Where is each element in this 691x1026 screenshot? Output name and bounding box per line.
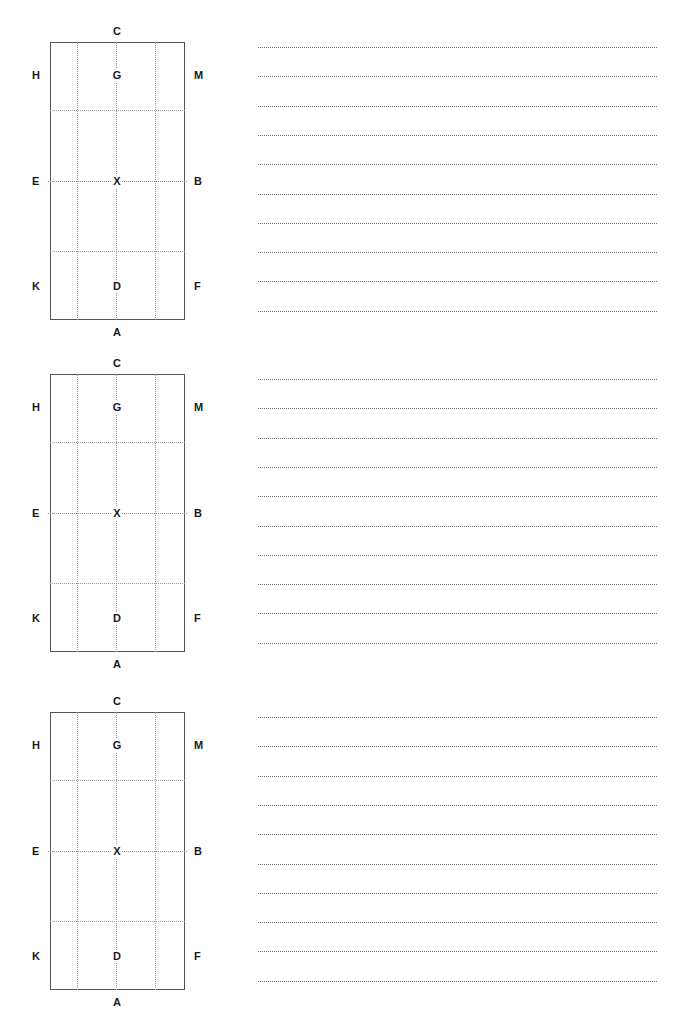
grid-label-left-bottom: K [30,950,42,963]
ruled-line[interactable] [258,47,657,48]
grid-label-inner-middle: X [111,845,122,858]
ruled-line[interactable] [258,805,657,806]
labeled-rectangle-grid[interactable]: C A H E K M B F G X D [50,42,185,320]
grid-label-inner-middle: X [111,175,122,188]
grid-label-left-bottom: K [30,612,42,625]
ruled-line[interactable] [258,922,657,923]
worksheet-block: C A H E K M B F G X D [0,695,691,995]
ruled-line[interactable] [258,981,657,982]
horizontal-guide-3 [50,921,185,922]
labeled-rectangle-grid[interactable]: C A H E K M B F G X D [50,712,185,990]
grid-label-inner-bottom: D [111,950,123,963]
grid-label-inner-middle: X [111,507,122,520]
ruled-line[interactable] [258,164,657,165]
ruled-line[interactable] [258,526,657,527]
ruled-line[interactable] [258,252,657,253]
labeled-rectangle-grid[interactable]: C A H E K M B F G X D [50,374,185,652]
grid-label-right-top: M [192,69,205,82]
ruled-line[interactable] [258,408,657,409]
worksheet-block: C A H E K M B F G X D [0,25,691,325]
horizontal-guide-1 [50,780,185,781]
dotted-ruled-lines[interactable] [258,25,657,325]
horizontal-guide-3 [50,251,185,252]
worksheet-block: C A H E K M B F G X D [0,357,691,657]
grid-label-left-top: H [30,401,42,414]
grid-label-left-middle: E [30,175,41,188]
ruled-line[interactable] [258,834,657,835]
grid-label-right-middle: B [192,845,204,858]
ruled-line[interactable] [258,613,657,614]
horizontal-guide-1 [50,110,185,111]
grid-label-right-top: M [192,401,205,414]
ruled-line[interactable] [258,776,657,777]
grid-label-inner-bottom: D [111,280,123,293]
grid-label-right-bottom: F [192,280,203,293]
ruled-line[interactable] [258,746,657,747]
ruled-line[interactable] [258,135,657,136]
ruled-line[interactable] [258,223,657,224]
grid-label-left-bottom: K [30,280,42,293]
grid-label-right-middle: B [192,175,204,188]
grid-label-inner-top: G [111,739,124,752]
ruled-line[interactable] [258,281,657,282]
ruled-line[interactable] [258,379,657,380]
grid-label-bottom: A [111,996,123,1009]
grid-label-inner-bottom: D [111,612,123,625]
ruled-line[interactable] [258,438,657,439]
grid-label-bottom: A [111,658,123,671]
grid-label-right-top: M [192,739,205,752]
grid-label-inner-top: G [111,401,124,414]
grid-label-top: C [111,25,123,38]
grid-label-left-top: H [30,69,42,82]
grid-label-right-bottom: F [192,612,203,625]
grid-label-left-middle: E [30,845,41,858]
dotted-ruled-lines[interactable] [258,357,657,657]
ruled-line[interactable] [258,194,657,195]
ruled-line[interactable] [258,717,657,718]
ruled-line[interactable] [258,864,657,865]
grid-label-inner-top: G [111,69,124,82]
ruled-line[interactable] [258,643,657,644]
horizontal-guide-3 [50,583,185,584]
ruled-line[interactable] [258,555,657,556]
ruled-line[interactable] [258,76,657,77]
ruled-line[interactable] [258,106,657,107]
worksheet-page: C A H E K M B F G X D C A H E K [0,0,691,1026]
grid-label-top: C [111,695,123,708]
grid-label-right-middle: B [192,507,204,520]
ruled-line[interactable] [258,311,657,312]
ruled-line[interactable] [258,496,657,497]
grid-label-left-top: H [30,739,42,752]
ruled-line[interactable] [258,467,657,468]
grid-label-top: C [111,357,123,370]
dotted-ruled-lines[interactable] [258,695,657,995]
grid-label-bottom: A [111,326,123,339]
ruled-line[interactable] [258,584,657,585]
horizontal-guide-1 [50,442,185,443]
grid-label-right-bottom: F [192,950,203,963]
grid-label-left-middle: E [30,507,41,520]
ruled-line[interactable] [258,951,657,952]
ruled-line[interactable] [258,893,657,894]
